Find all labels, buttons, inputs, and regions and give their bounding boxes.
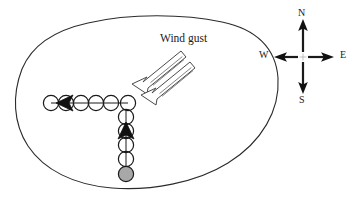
compass-east-arrow — [308, 52, 334, 62]
compass-south-label: S — [299, 95, 305, 105]
compass-north-arrow — [298, 19, 308, 52]
compass-north-label: N — [298, 8, 305, 18]
westward-track — [43, 95, 135, 111]
region-boundary-path — [15, 16, 278, 189]
wind-gust-label: Wind gust — [160, 33, 207, 45]
northward-track — [118, 109, 134, 181]
compass-rose — [274, 19, 334, 94]
wind-gust-arrows — [132, 51, 195, 105]
compass-west-label: W — [259, 50, 268, 60]
compass-west-arrow — [274, 52, 298, 62]
track-circle-terminal — [118, 166, 133, 181]
compass-east-label: E — [340, 50, 346, 60]
compass-south-arrow — [298, 62, 308, 94]
diagram-svg — [0, 0, 363, 200]
figure-canvas: Wind gust N S W E — [0, 0, 363, 200]
